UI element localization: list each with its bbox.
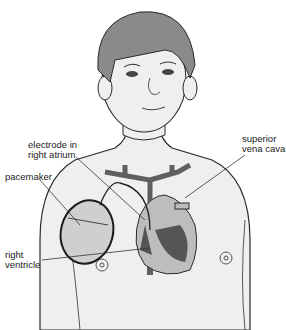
right-eye	[162, 69, 174, 75]
label-electrode: electrode in right atrium	[28, 140, 77, 160]
left-eye	[126, 71, 138, 77]
label-right-ventricle: right ventricle	[5, 250, 40, 270]
pacemaker-illustration	[0, 0, 286, 330]
label-superior-vena-cava: superior vena cava	[242, 134, 285, 154]
label-pacemaker: pacemaker	[5, 172, 52, 182]
right-ear	[183, 76, 197, 100]
